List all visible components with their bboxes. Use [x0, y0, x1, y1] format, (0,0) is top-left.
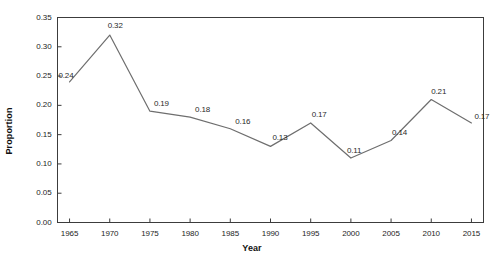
x-axis-tick-label: 2015 — [451, 229, 491, 238]
y-axis-tick-label: 0.30 — [22, 42, 52, 51]
x-axis-tick-label: 1980 — [170, 229, 210, 238]
y-axis-tick-label: 0.00 — [22, 218, 52, 227]
data-point-label: 0.18 — [195, 105, 210, 114]
y-axis-tick-label: 0.20 — [22, 100, 52, 109]
x-axis-tick-label: 2005 — [371, 229, 411, 238]
y-axis-tick-label: 0.10 — [22, 159, 52, 168]
x-axis-tick-label: 1965 — [50, 229, 90, 238]
y-axis-tick-label: 0.15 — [22, 130, 52, 139]
data-point-label: 0.21 — [431, 87, 446, 96]
x-axis-tick-label: 1995 — [291, 229, 331, 238]
data-point-label: 0.13 — [273, 133, 288, 142]
data-point-label: 0.24 — [59, 71, 74, 80]
data-series-line — [70, 35, 472, 158]
plot-frame — [58, 18, 484, 223]
x-axis-title: Year — [0, 243, 504, 253]
x-axis-tick-label: 1970 — [90, 229, 130, 238]
x-axis-tick-label: 2000 — [331, 229, 371, 238]
y-axis-tick-label: 0.05 — [22, 188, 52, 197]
data-point-label: 0.11 — [347, 146, 361, 155]
data-point-label: 0.17 — [312, 110, 327, 119]
y-axis-tick-label: 0.25 — [22, 71, 52, 80]
data-point-label: 0.16 — [235, 117, 250, 126]
x-axis-tick-label: 2010 — [411, 229, 451, 238]
data-point-label: 0.14 — [392, 128, 407, 137]
data-point-label: 0.17 — [474, 112, 489, 121]
line-chart-plot — [0, 0, 504, 267]
y-axis-tick-label: 0.35 — [22, 13, 52, 22]
x-axis-tick-label: 1975 — [130, 229, 170, 238]
chart-figure: Proportion Year 0.000.050.100.150.200.25… — [0, 0, 504, 267]
x-axis-tick-label: 1990 — [251, 229, 291, 238]
x-axis-tick-label: 1985 — [210, 229, 250, 238]
data-point-label: 0.19 — [154, 99, 169, 108]
data-point-label: 0.32 — [108, 21, 123, 30]
